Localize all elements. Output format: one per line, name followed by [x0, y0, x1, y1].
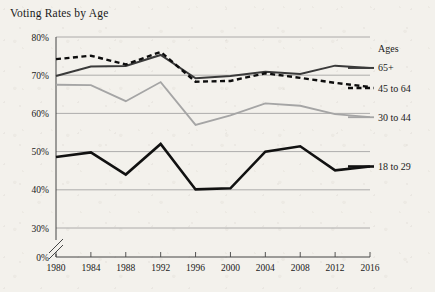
- legend-label-18-to-29: 18 to 29: [378, 161, 411, 172]
- svg-text:2012: 2012: [326, 263, 345, 273]
- svg-text:1988: 1988: [116, 263, 135, 273]
- data-series: [56, 52, 370, 190]
- svg-text:1992: 1992: [151, 263, 170, 273]
- svg-text:1980: 1980: [47, 263, 66, 273]
- svg-text:30%: 30%: [32, 224, 50, 234]
- svg-text:1984: 1984: [81, 263, 100, 273]
- svg-text:2000: 2000: [221, 263, 240, 273]
- svg-text:50%: 50%: [32, 147, 50, 157]
- legend-label-45-to-64: 45 to 64: [378, 83, 411, 94]
- legend-label-65: 65+: [378, 62, 394, 73]
- svg-text:2004: 2004: [256, 263, 275, 273]
- legend-title: Ages: [378, 43, 399, 54]
- svg-text:70%: 70%: [32, 71, 50, 81]
- svg-text:80%: 80%: [32, 33, 50, 43]
- svg-text:2008: 2008: [291, 263, 310, 273]
- series-line-18-to-29: [56, 144, 370, 189]
- svg-text:1996: 1996: [186, 263, 205, 273]
- svg-text:2016: 2016: [361, 263, 380, 273]
- legend-label-30-to-44: 30 to 44: [378, 112, 411, 123]
- chart-legend: Ages65+45 to 6430 to 4418 to 29: [348, 43, 411, 172]
- svg-text:40%: 40%: [32, 185, 50, 195]
- x-axis: 1980198419881992199620002004200820122016: [47, 252, 380, 273]
- series-line-30-to-44: [56, 82, 370, 125]
- line-chart: 80%70%60%50%40%30%0% 1980198419881992199…: [0, 0, 435, 292]
- series-line-65: [56, 55, 370, 78]
- svg-text:60%: 60%: [32, 109, 50, 119]
- svg-text:0%: 0%: [36, 253, 49, 263]
